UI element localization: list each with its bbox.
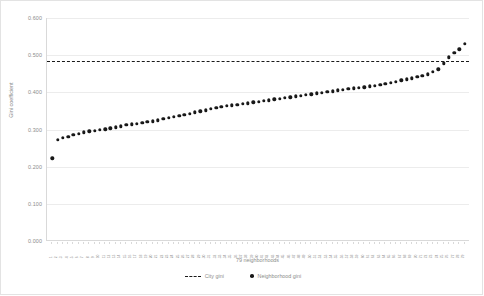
data-point (463, 42, 466, 45)
data-point (405, 78, 408, 81)
data-point (415, 75, 418, 78)
x-axis-tickmark (453, 242, 454, 244)
legend-item-city-gini[interactable]: City gini (185, 273, 224, 279)
x-axis-tickmark (427, 242, 428, 244)
data-point (289, 95, 292, 98)
data-point (66, 135, 69, 138)
data-point (273, 98, 276, 101)
data-point (426, 72, 429, 75)
x-axis-tickmark (178, 242, 179, 244)
data-point (252, 101, 255, 104)
x-axis-tickmark (88, 242, 89, 244)
x-axis-tickmark (136, 242, 137, 244)
x-axis-tickmark (316, 242, 317, 244)
x-axis-tickmark (109, 242, 110, 244)
data-point (262, 99, 265, 102)
data-point (88, 130, 91, 133)
data-point (384, 82, 387, 85)
x-axis-tickmark (231, 242, 232, 244)
x-axis-tickmark (310, 242, 311, 244)
x-axis-tickmark (146, 242, 147, 244)
x-axis-tickmark (443, 242, 444, 244)
x-axis-title: 79 neighborhoods (46, 257, 469, 263)
data-point (93, 129, 96, 132)
data-point (172, 115, 175, 118)
data-point (447, 56, 450, 59)
x-axis-tickmark (263, 242, 264, 244)
x-axis-tickmark (51, 242, 52, 244)
data-point (56, 138, 59, 141)
x-axis-tickmark (432, 242, 433, 244)
x-axis-tickmark (99, 242, 100, 244)
data-point (452, 51, 455, 54)
chart-legend: City gini Neighborhood gini (1, 273, 484, 279)
data-point (167, 116, 170, 119)
x-axis-tickmark (273, 242, 274, 244)
data-point (188, 112, 191, 115)
data-point (61, 136, 64, 139)
x-axis-tickmark (220, 242, 221, 244)
x-axis-tickmark (411, 242, 412, 244)
data-point (140, 121, 143, 124)
x-axis-tickmark (448, 242, 449, 244)
x-axis-tickmark (295, 242, 296, 244)
x-axis-tickmark (67, 242, 68, 244)
data-point (278, 97, 281, 100)
gridline (47, 18, 469, 19)
x-axis-tickmark (72, 242, 73, 244)
data-point (373, 84, 376, 87)
legend-label-neighborhood-gini: Neighborhood gini (258, 273, 302, 279)
data-point (458, 48, 461, 51)
x-axis-tickmark (57, 242, 58, 244)
data-point (230, 104, 233, 107)
x-axis-tick-labels: 1234567891011121314151617181920212223242… (46, 242, 469, 258)
gridline (47, 167, 469, 168)
x-axis-tickmark (242, 242, 243, 244)
data-point (162, 117, 165, 120)
data-point (347, 87, 350, 90)
x-axis-tickmark (384, 242, 385, 244)
data-point (320, 91, 323, 94)
x-axis-tickmark (183, 242, 184, 244)
data-point (220, 105, 223, 108)
data-point (72, 133, 75, 136)
x-axis-tickmark (194, 242, 195, 244)
data-point (151, 120, 154, 123)
x-axis-tickmark (464, 242, 465, 244)
data-point (156, 119, 159, 122)
x-axis-tickmark (421, 242, 422, 244)
x-axis-tickmark (390, 242, 391, 244)
x-axis-tickmark (289, 242, 290, 244)
data-point (82, 131, 85, 134)
data-point (352, 87, 355, 90)
x-axis-tickmark (395, 242, 396, 244)
legend-item-neighborhood-gini[interactable]: Neighborhood gini (250, 273, 301, 279)
x-axis-tickmark (226, 242, 227, 244)
data-point (77, 132, 80, 135)
data-point (368, 85, 371, 88)
x-axis-tickmark (332, 242, 333, 244)
data-point (125, 123, 128, 126)
x-axis-tickmark (104, 242, 105, 244)
data-point (51, 156, 54, 159)
data-point (267, 98, 270, 101)
data-point (246, 101, 249, 104)
data-point (183, 113, 186, 116)
x-axis-tickmark (437, 242, 438, 244)
x-axis-tickmark (78, 242, 79, 244)
data-point (193, 111, 196, 114)
x-axis-tickmark (236, 242, 237, 244)
x-axis-tickmark (353, 242, 354, 244)
y-axis-tick-label: 0.000 (28, 238, 42, 244)
y-axis-tick-label: 0.400 (28, 89, 42, 95)
x-axis-tickmark (199, 242, 200, 244)
x-axis-tickmark (258, 242, 259, 244)
x-axis-tickmark (83, 242, 84, 244)
x-axis-tickmark (120, 242, 121, 244)
gridline (47, 204, 469, 205)
chart-container: 0.0000.1000.2000.3000.4000.5000.600 Gini… (0, 0, 483, 295)
data-point (410, 77, 413, 80)
y-axis-tick-label: 0.600 (28, 15, 42, 21)
x-axis-tickmark (458, 242, 459, 244)
data-point (283, 96, 286, 99)
